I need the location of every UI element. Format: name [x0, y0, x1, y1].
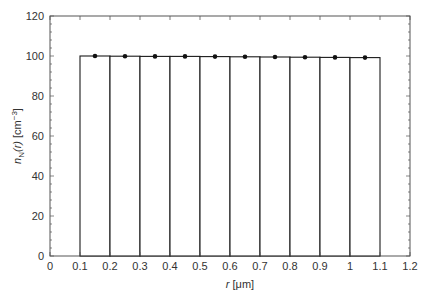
x-tick-label: 0.7 [252, 260, 267, 272]
y-tick-label: 60 [32, 130, 44, 142]
y-tick-label: 20 [32, 210, 44, 222]
x-tick-label: 1.2 [402, 260, 417, 272]
data-point [183, 54, 188, 59]
data-point [363, 55, 368, 60]
data-point [123, 54, 128, 59]
x-tick-label: 1 [347, 260, 353, 272]
x-axis-label: r [μm] [226, 278, 254, 290]
data-point [213, 54, 218, 59]
x-tick-label: 0.6 [222, 260, 237, 272]
histogram-bar [140, 56, 170, 256]
histogram-bar [230, 57, 260, 256]
data-point [333, 55, 338, 60]
data-point [303, 55, 308, 60]
data-point [243, 55, 248, 60]
x-tick-label: 0.1 [72, 260, 87, 272]
x-tick-label: 0.5 [192, 260, 207, 272]
y-tick-label: 80 [32, 90, 44, 102]
histogram-bar [110, 56, 140, 256]
y-tick-label: 40 [32, 170, 44, 182]
data-point [273, 55, 278, 60]
histogram-bar [170, 56, 200, 256]
x-tick-label: 1.1 [372, 260, 387, 272]
histogram-chart: 00.10.20.30.40.50.60.70.80.911.11.2 0204… [0, 0, 425, 295]
x-tick-label: 0.9 [312, 260, 327, 272]
x-tick-label: 0.2 [102, 260, 117, 272]
histogram-bar [290, 57, 320, 256]
y-tick-label: 100 [26, 50, 44, 62]
histogram-bar [260, 57, 290, 256]
data-point [93, 54, 98, 59]
x-tick-label: 0.8 [282, 260, 297, 272]
x-tick-label: 0.4 [162, 260, 177, 272]
data-point [153, 54, 158, 59]
x-tick-label: 0.3 [132, 260, 147, 272]
y-tick-label: 0 [38, 250, 44, 262]
histogram-bars [80, 56, 380, 256]
y-tick-label: 120 [26, 10, 44, 22]
histogram-bar [200, 57, 230, 256]
histogram-bar [80, 56, 110, 256]
y-axis-label: nN(r) [cm−3] [10, 108, 26, 164]
histogram-bar [350, 58, 380, 256]
histogram-bar [320, 57, 350, 256]
x-tick-label: 0 [47, 260, 53, 272]
